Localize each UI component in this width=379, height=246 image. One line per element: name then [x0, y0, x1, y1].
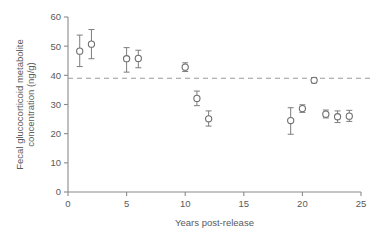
- data-point-marker: [346, 113, 352, 119]
- data-point-marker: [323, 111, 329, 117]
- data-point-marker: [194, 95, 200, 101]
- data-point-group: [77, 35, 83, 67]
- data-point-marker: [77, 48, 83, 54]
- x-tick-label: 0: [65, 198, 70, 209]
- scatter-plot-figure: Fecal glucocorticoid metaboliteconcentra…: [0, 0, 379, 246]
- x-tick-label: 5: [124, 198, 129, 209]
- data-point-marker: [88, 41, 94, 47]
- data-point-marker: [334, 114, 340, 120]
- data-point-group: [334, 111, 340, 123]
- data-point-group: [194, 91, 200, 106]
- data-point-group: [182, 63, 188, 72]
- data-series: [77, 30, 353, 135]
- x-tick-label: 15: [239, 198, 250, 209]
- y-axis-title-line-2: concentration (ng/g): [25, 62, 36, 147]
- data-point-group: [346, 110, 352, 121]
- y-tick-label: 0: [56, 186, 61, 197]
- data-point-marker: [135, 55, 141, 61]
- axis-lines: [68, 17, 361, 192]
- y-tick-label: 40: [50, 70, 61, 81]
- y-tick-label: 60: [50, 11, 61, 22]
- x-axis-ticks: 0510152025: [65, 192, 366, 209]
- x-tick-label: 10: [180, 198, 191, 209]
- data-point-group: [311, 77, 317, 83]
- data-point-group: [88, 30, 94, 59]
- x-axis-title: Years post-release: [175, 217, 254, 228]
- data-point-group: [124, 48, 130, 73]
- x-axis-title-label: Years post-release: [175, 217, 254, 228]
- data-point-marker: [124, 56, 130, 62]
- data-point-marker: [182, 64, 188, 70]
- data-point-group: [323, 110, 329, 118]
- y-tick-label: 20: [50, 128, 61, 139]
- chart-page: Fecal glucocorticoid metaboliteconcentra…: [0, 0, 379, 246]
- data-point-marker: [288, 117, 294, 123]
- y-axis-ticks: 0102030405060: [50, 11, 68, 197]
- x-tick-label: 20: [297, 198, 308, 209]
- data-point-marker: [299, 105, 305, 111]
- y-axis-title-line-1: Fecal glucocorticoid metabolite: [14, 39, 25, 169]
- data-point-group: [135, 50, 141, 68]
- y-axis-title: Fecal glucocorticoid metaboliteconcentra…: [14, 39, 36, 169]
- y-tick-label: 30: [50, 99, 61, 110]
- data-point-group: [206, 111, 212, 126]
- y-tick-label: 50: [50, 41, 61, 52]
- data-point-marker: [311, 77, 317, 83]
- x-tick-label: 25: [356, 198, 367, 209]
- y-tick-label: 10: [50, 157, 61, 168]
- data-point-marker: [206, 116, 212, 122]
- data-point-group: [288, 108, 294, 135]
- data-point-group: [299, 105, 305, 113]
